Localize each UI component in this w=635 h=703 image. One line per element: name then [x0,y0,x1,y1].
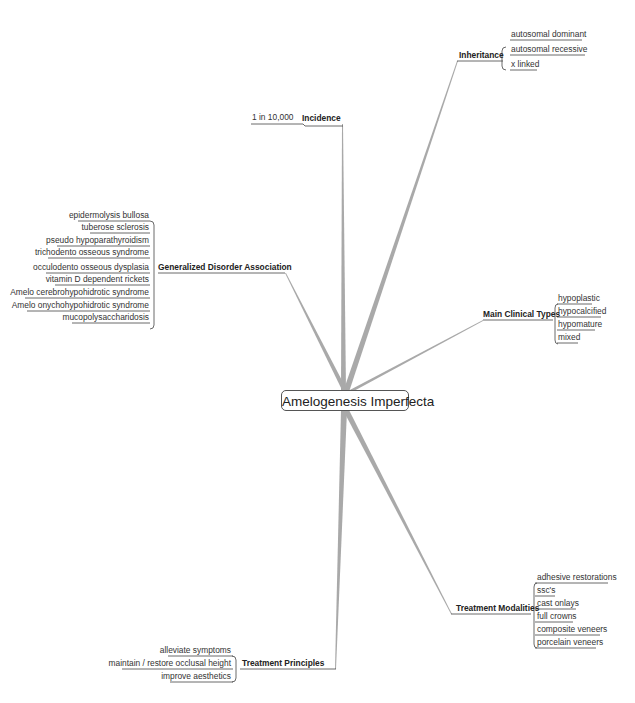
leaf-hypomature[interactable]: hypomature [558,319,602,329]
branch-incidence [341,124,346,392]
leaf-autosomal-recessive[interactable]: autosomal recessive [511,44,587,54]
leaf-mucopolysaccharidosis[interactable]: mucopolysaccharidosis [62,312,149,322]
leaf-mixed[interactable]: mixed [558,332,580,342]
leaf-pseudo-hypoparathyroidism[interactable]: pseudo hypoparathyroidism [46,235,149,245]
central-topic[interactable]: Amelogenesis Imperfecta [281,390,409,411]
leaf-occulodento-osseous-dysplasia[interactable]: occulodento osseous dysplasia [33,262,149,272]
branch-generalized [285,273,348,392]
topic-generalized-disorder-association[interactable]: Generalized Disorder Association [158,262,292,272]
leaf-1-in-10000[interactable]: 1 in 10,000 [252,112,293,122]
leaf-amelo-onychohypohidrotic-syndrome[interactable]: Amelo onychohypohidrotic syndrome [12,300,149,310]
topic-main-clinical-types[interactable]: Main Clinical Types [483,309,560,319]
topic-inheritance[interactable]: Inheritance [459,50,504,60]
leaf-amelo-cerebrohypohidrotic-syndrome[interactable]: Amelo cerebrohypohidrotic syndrome [10,287,149,297]
topic-incidence[interactable]: Incidence [302,113,341,123]
leaf-alleviate-symptoms[interactable]: alleviate symptoms [160,645,231,655]
leaf-trichodento-osseous-syndrome[interactable]: trichodento osseous syndrome [35,247,149,257]
leaf-tuberose-sclerosis[interactable]: tuberose sclerosis [82,222,150,232]
leaf-hypoplastic[interactable]: hypoplastic [558,293,600,303]
leaf-improve-aesthetics[interactable]: improve aesthetics [161,671,231,681]
branch-modalities [343,410,452,614]
topic-treatment-modalities[interactable]: Treatment Modalities [456,603,539,613]
leaf-autosomal-dominant[interactable]: autosomal dominant [511,29,586,39]
leaf-composite-veneers[interactable]: composite veneers [537,624,607,634]
leaf-sscs[interactable]: ssc's [537,585,555,595]
leaf-maintain-restore-occlusal-height[interactable]: maintain / restore occlusal height [109,658,231,668]
leaf-cast-onlays[interactable]: cast onlays [537,598,579,608]
leaf-full-crowns[interactable]: full crowns [537,611,577,621]
leaf-hypocalcified[interactable]: hypocalcified [558,306,606,316]
leaf-epidermolysis-bullosa[interactable]: epidermolysis bullosa [69,210,149,220]
leaf-x-linked[interactable]: x linked [511,59,539,69]
leaf-vitamin-d-dependent-rickets[interactable]: vitamin D dependent rickets [46,274,149,284]
branch-principles [335,410,347,669]
leaf-porcelain-veneers[interactable]: porcelain veneers [537,637,603,647]
leaf-adhesive-restorations[interactable]: adhesive restorations [537,572,617,582]
topic-treatment-principles[interactable]: Treatment Principles [242,658,324,668]
